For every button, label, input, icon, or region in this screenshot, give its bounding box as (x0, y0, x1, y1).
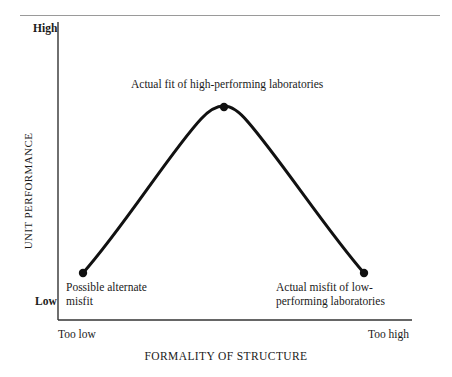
x-axis-too-low-label: Too low (58, 329, 96, 341)
marker-actual-fit-high-performing (220, 103, 228, 111)
y-axis-low-label: Low (35, 296, 57, 308)
marker-possible-alternate-misfit (79, 269, 87, 277)
annotation-possible-alternate-misfit: Possible alternate misfit (66, 281, 147, 308)
x-axis-too-high-label: Too high (368, 329, 409, 341)
y-axis-title: UNIT PERFORMANCE (22, 111, 34, 271)
plot-area (0, 0, 452, 377)
marker-actual-misfit-low-performing (360, 269, 368, 277)
annotation-actual-misfit: Actual misfit of low- performing laborat… (276, 281, 385, 308)
annotation-actual-fit: Actual fit of high-performing laboratori… (131, 78, 323, 92)
chart-figure: High Low Too low Too high UNIT PERFORMAN… (0, 0, 452, 377)
y-axis-high-label: High (33, 23, 57, 35)
fit-curve (83, 106, 364, 273)
x-axis-title: FORMALITY OF STRUCTURE (0, 350, 452, 362)
